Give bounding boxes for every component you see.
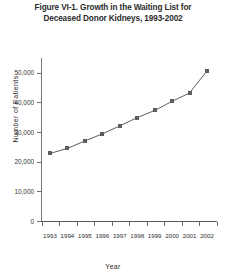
y-axis-tick-label: 0: [0, 218, 34, 225]
figure-container: Figure VI-1. Growth in the Waiting List …: [0, 0, 226, 279]
x-axis-tick: [112, 222, 113, 226]
y-axis-tick: [37, 132, 41, 133]
data-point-marker: [135, 116, 139, 120]
y-axis-tick: [37, 73, 41, 74]
x-axis-tick: [59, 222, 60, 226]
data-point-marker: [48, 151, 52, 155]
x-axis-tick: [147, 222, 148, 226]
data-point-marker: [65, 146, 69, 150]
y-axis-tick: [37, 191, 41, 192]
figure-title-line-1: Figure VI-1. Growth in the Waiting List …: [0, 2, 226, 13]
x-axis-tick: [129, 222, 130, 226]
x-axis-tick: [42, 222, 43, 226]
x-axis-tick: [217, 222, 218, 226]
y-axis-tick-label: 10,000: [0, 188, 34, 195]
data-point-marker: [83, 139, 87, 143]
data-point-marker: [170, 99, 174, 103]
x-axis-title: Year: [0, 262, 226, 271]
data-point-marker: [188, 91, 192, 95]
x-axis-tick: [199, 222, 200, 226]
data-point-marker: [118, 124, 122, 128]
figure-title: Figure VI-1. Growth in the Waiting List …: [0, 2, 226, 24]
x-axis-tick: [182, 222, 183, 226]
data-point-marker: [100, 132, 104, 136]
x-axis-tick-label: 2002: [195, 232, 219, 240]
data-point-marker: [205, 69, 209, 73]
x-axis-tick: [77, 222, 78, 226]
figure-title-line-2: Deceased Donor Kidneys, 1993-2002: [0, 13, 226, 24]
y-axis-line: [41, 58, 42, 222]
x-axis-tick: [164, 222, 165, 226]
y-axis-title: Number of Patients: [12, 44, 20, 174]
y-axis-tick: [37, 162, 41, 163]
x-axis-tick: [94, 222, 95, 226]
data-point-marker: [153, 108, 157, 112]
y-axis-tick: [37, 221, 41, 222]
y-axis-tick: [37, 102, 41, 103]
